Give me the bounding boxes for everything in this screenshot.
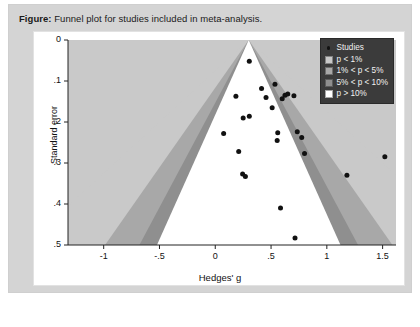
y-tick-label: .4 [34, 198, 61, 208]
legend-item: 1% < p < 5% [325, 66, 388, 77]
x-tick-label: 1 [307, 251, 347, 261]
x-axis-title: Hedges' g [34, 272, 406, 283]
figure-card: Figure: Funnel plot for studies included… [8, 4, 412, 293]
legend-item: p < 1% [325, 54, 388, 65]
legend-marker-icon [325, 44, 333, 52]
x-tick-label: -1 [84, 251, 124, 261]
y-tick-label: 0 [34, 34, 61, 44]
figure-caption-label: Figure: [19, 13, 52, 24]
legend-item-label: 5% < p < 10% [337, 78, 388, 88]
figure-caption-text: Funnel plot for studies included in meta… [52, 13, 263, 24]
figure-screenshot: Figure: Funnel plot for studies included… [0, 0, 420, 327]
x-tick-label: -.5 [139, 251, 179, 261]
y-tick-label: .1 [34, 75, 61, 85]
legend-item-label: 1% < p < 5% [337, 66, 384, 76]
funnel-plot: Standard error Hedges' g 0.1.2.3.4.5 -1-… [34, 32, 406, 287]
legend-item: p > 10% [325, 89, 388, 100]
legend-item-label: p < 1% [337, 55, 363, 65]
x-tick-label: 0 [195, 251, 235, 261]
legend-swatch [325, 90, 333, 98]
legend-swatch [325, 79, 333, 87]
legend-item: Studies [325, 43, 388, 54]
plot-panel: Standard error Hedges' g 0.1.2.3.4.5 -1-… [33, 31, 405, 286]
x-tick-label: .5 [251, 251, 291, 261]
legend-dot-icon [327, 46, 330, 49]
y-tick-label: .2 [34, 116, 61, 126]
y-tick-label: .3 [34, 157, 61, 167]
legend: Studiesp < 1%1% < p < 5%5% < p < 10%p > … [320, 38, 394, 104]
legend-swatch [325, 67, 333, 75]
y-tick-label: .5 [34, 239, 61, 249]
legend-item-label: Studies [337, 43, 364, 53]
y-axis-title: Standard error [49, 65, 59, 205]
x-tick-label: 1.5 [363, 251, 403, 261]
legend-item-label: p > 10% [337, 89, 367, 99]
figure-caption: Figure: Funnel plot for studies included… [19, 13, 262, 24]
legend-swatch [325, 56, 333, 64]
legend-item: 5% < p < 10% [325, 77, 388, 88]
